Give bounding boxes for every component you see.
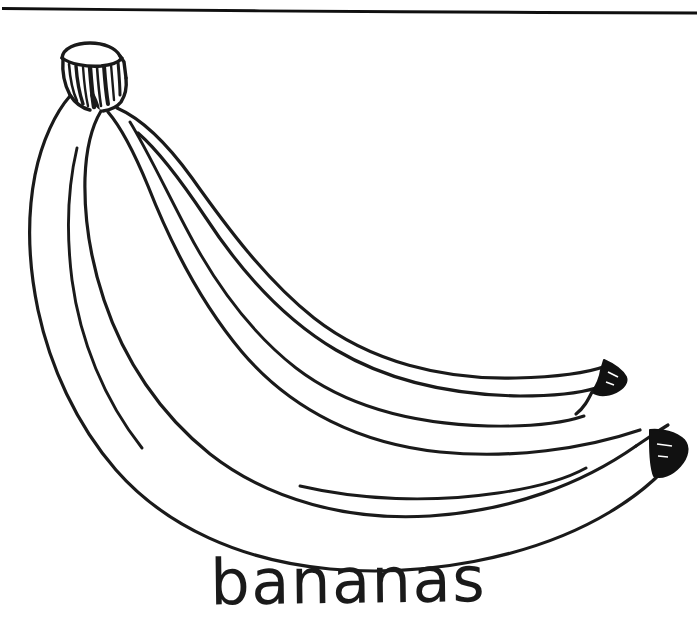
page-background bbox=[0, 0, 697, 641]
coloring-page: bananas bbox=[0, 0, 697, 641]
banana-line-art bbox=[0, 0, 697, 641]
